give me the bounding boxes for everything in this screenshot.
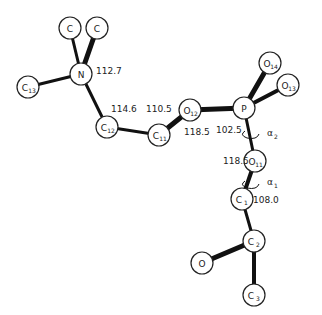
atom-label: P <box>241 104 247 114</box>
atom-subscript: 12 <box>190 110 198 117</box>
bond-angle-label: 102.5 <box>216 125 242 135</box>
atom-label: C <box>236 195 242 205</box>
atom-c3: C3 <box>243 284 265 306</box>
atom-subscript: 2 <box>256 241 260 248</box>
atom-c11: C11 <box>148 124 170 146</box>
bond-angle-label: 110.5 <box>146 104 172 114</box>
atom-subscript: 11 <box>255 161 263 168</box>
molecule-diagram: CCNC13C12C11O12PO14O13O11C1C2OC3 112.711… <box>0 0 322 315</box>
bond-angle-label: 114.6 <box>111 104 137 114</box>
atom-subscript: 13 <box>288 85 296 92</box>
atom-p: P <box>233 97 255 119</box>
atom-o13: O13 <box>277 74 299 96</box>
atom-subscript: 3 <box>256 295 260 302</box>
atom-c2: C2 <box>243 230 265 252</box>
torsion-subscript: 1 <box>274 182 278 189</box>
atom-label: N <box>78 70 85 80</box>
atom-c12: C12 <box>96 116 118 138</box>
atom-o14: O14 <box>259 52 281 74</box>
bond-angle-label: 118.5 <box>184 127 210 137</box>
atom-label: C <box>94 24 100 34</box>
atom-o12: O12 <box>179 99 201 121</box>
atoms: CCNC13C12C11O12PO14O13O11C1C2OC3 <box>17 17 299 306</box>
torsion-subscript: 2 <box>274 133 278 140</box>
bond-angle-label: 108.0 <box>253 195 279 205</box>
atom-n: N <box>70 63 92 85</box>
bond-angle-labels: 112.7114.6110.5118.5102.5118.5108.0 <box>96 66 279 205</box>
atom-subscript: 11 <box>159 135 167 142</box>
atom-subscript: 14 <box>270 63 278 70</box>
atom-c13: C13 <box>17 76 39 98</box>
atom-cb: C <box>86 17 108 39</box>
atom-ca: C <box>59 17 81 39</box>
atom-label: C <box>248 237 254 247</box>
atom-label: O <box>198 259 205 269</box>
atom-o: O <box>191 252 213 274</box>
atom-subscript: 13 <box>28 87 36 94</box>
atom-subscript: 1 <box>244 199 248 206</box>
atom-label: C <box>67 24 73 34</box>
torsion-label: α <box>267 177 273 187</box>
bond-angle-label: 118.5 <box>223 156 249 166</box>
torsion-label: α <box>267 128 273 138</box>
torsion-labels: α2α1 <box>267 128 278 189</box>
bond-angle-label: 112.7 <box>96 66 122 76</box>
atom-subscript: 12 <box>107 127 115 134</box>
atom-c1: C1 <box>231 188 253 210</box>
atom-label: C <box>248 291 254 301</box>
